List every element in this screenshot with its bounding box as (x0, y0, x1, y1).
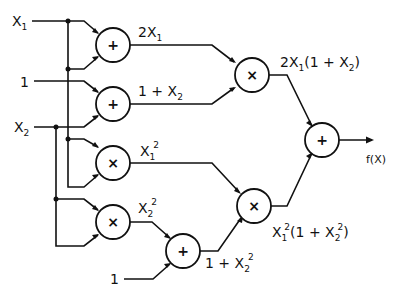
input-one-b-label: 1 (110, 271, 119, 287)
junction-dot (66, 19, 71, 24)
node-add4: + (305, 123, 339, 157)
label-1-plus-x2-squared: 1 + X22 (205, 252, 254, 274)
add-icon: + (177, 243, 189, 259)
wire-mul3-add4 (269, 75, 312, 126)
junction-dot (54, 197, 59, 202)
add-icon: + (107, 96, 119, 112)
input-x2-label: X2 (14, 119, 29, 138)
wire-one-add3 (124, 264, 170, 279)
wire-mul4-add4 (271, 153, 312, 206)
output-arrow-icon (366, 137, 374, 144)
label-2x1-times-1-plus-x2: 2X1(1 + X2) (280, 54, 360, 73)
wire-mul2-add3 (130, 222, 170, 238)
input-x1-label: X1 (12, 13, 27, 32)
arrow-icon (92, 142, 99, 148)
multiply-icon: × (246, 67, 258, 83)
wire-one-add2 (34, 81, 98, 92)
junction-dot (54, 125, 59, 130)
label-x1sq-times-1-plus-x2sq: X12(1 + X22) (272, 222, 349, 243)
wire-mul1-mul4 (130, 163, 239, 192)
arrow-icon (229, 57, 236, 63)
add-icon: + (107, 37, 119, 53)
input-one-label: 1 (20, 74, 29, 90)
wire-add3-mul4 (198, 218, 241, 251)
arrow-icon (164, 263, 171, 268)
label-x1-squared: X12 (140, 140, 159, 162)
node-mul4: × (237, 189, 271, 223)
node-add1: + (96, 28, 130, 62)
node-mul3: × (235, 58, 269, 92)
junction-dot (66, 67, 71, 72)
node-mul1: × (96, 146, 130, 180)
output-fx-label: f(X) (366, 153, 386, 166)
computation-graph: + + × × + × × + X1 1 X2 1 2X1 1 + X2 X12… (0, 0, 404, 298)
label-1-plus-x2: 1 + X2 (138, 83, 183, 102)
label-x2-squared: X22 (138, 197, 157, 219)
multiply-icon: × (107, 155, 119, 171)
add-icon: + (316, 132, 328, 148)
node-add2: + (96, 87, 130, 121)
multiply-icon: × (107, 214, 119, 230)
label-2x1: 2X1 (138, 24, 162, 43)
node-add3: + (166, 234, 200, 268)
wire-x1-add1 (32, 21, 98, 33)
wire-x2-add2 (34, 116, 98, 127)
junction-dot (66, 137, 71, 142)
wire-add1-mul3 (130, 45, 234, 62)
node-mul2: × (96, 205, 130, 239)
multiply-icon: × (248, 198, 260, 214)
